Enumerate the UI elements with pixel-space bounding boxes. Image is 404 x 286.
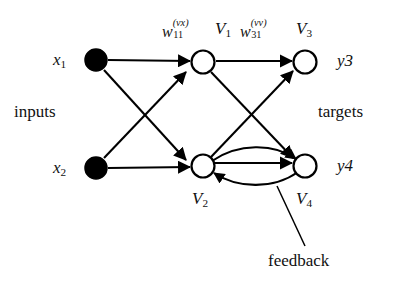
feedback-caption: feedback [268, 252, 329, 269]
target-label-y4: y4 [337, 157, 353, 174]
input-label-x2: x2 [53, 159, 66, 178]
input-label-x1: x1 [53, 51, 66, 70]
unit-node-v1 [192, 51, 215, 74]
input-node-x2 [85, 157, 107, 179]
network-graph-svg [0, 0, 404, 286]
edge-x1-v1 [108, 60, 190, 61]
weight-label-w-vx-11: w (vx) 11 [162, 24, 203, 41]
inputs-caption: inputs [14, 103, 56, 120]
unit-label-v4: V4 [296, 190, 312, 209]
weight-label-w-vv-31: w (vv) 31 [240, 24, 281, 41]
unit-node-v3 [294, 51, 317, 74]
unit-label-v2: V2 [192, 190, 208, 209]
network-diagram: x1 x2 inputs targets w (vx) 11 w (vv) 31… [0, 0, 404, 286]
targets-caption: targets [318, 103, 363, 120]
input-node-x1 [85, 49, 107, 71]
unit-label-v1: V1 [215, 20, 231, 39]
edge-x2-v2 [108, 167, 190, 168]
edge-feedback-v4-v2 [214, 172, 298, 185]
unit-node-v2 [192, 155, 215, 178]
unit-label-v3: V3 [296, 20, 312, 39]
unit-node-v4 [294, 155, 317, 178]
target-label-y3: y3 [337, 52, 353, 69]
